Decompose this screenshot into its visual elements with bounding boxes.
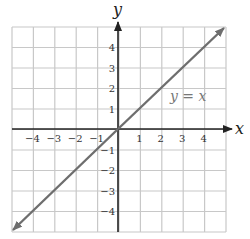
- coordinate-plane: y x y = x −4−3−2−11234 4321−1−2−3−4: [0, 0, 250, 239]
- x-axis-label: x: [235, 119, 244, 138]
- x-tick-label: 2: [158, 133, 164, 144]
- y-tick-label: −1: [100, 145, 115, 156]
- y-tick-label: 1: [109, 104, 115, 115]
- equation-label: y = x: [169, 88, 207, 104]
- x-tick-label: −4: [25, 133, 40, 144]
- x-tick-label: 4: [200, 133, 206, 144]
- x-tick-label: 1: [136, 133, 142, 144]
- x-tick-label: 3: [179, 133, 185, 144]
- x-tick-label: −3: [46, 133, 61, 144]
- x-tick-label: −2: [68, 133, 83, 144]
- y-tick-label: 3: [109, 63, 115, 74]
- y-axis-label: y: [112, 0, 123, 19]
- y-tick-label: −3: [100, 186, 115, 197]
- y-tick-label: 2: [109, 83, 115, 94]
- line-y-equals-x: [118, 28, 224, 129]
- x-tick-labels: −4−3−2−11234: [25, 133, 207, 144]
- x-tick-label: −1: [89, 133, 104, 144]
- y-tick-label: −2: [100, 165, 115, 176]
- y-tick-label: −4: [100, 206, 115, 217]
- y-tick-label: 4: [109, 42, 115, 53]
